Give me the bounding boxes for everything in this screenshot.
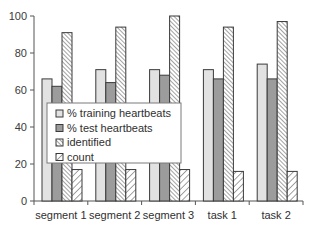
- x-category-label: segment 2: [89, 209, 140, 221]
- y-tick-label: 100: [9, 10, 27, 22]
- bar: [223, 27, 233, 201]
- legend-label: count: [67, 151, 94, 163]
- x-category-label: task 1: [208, 209, 237, 221]
- bar: [233, 171, 243, 201]
- legend-label: % test heartbeats: [67, 122, 153, 134]
- bar: [180, 170, 190, 201]
- legend-item: % training heartbeats: [56, 107, 171, 119]
- x-category-label: segment 1: [35, 209, 86, 221]
- bar: [277, 22, 287, 201]
- bar-group: [257, 22, 297, 201]
- y-axis: 020406080100: [9, 10, 34, 207]
- y-tick-label: 40: [15, 121, 27, 133]
- bar: [203, 70, 213, 201]
- legend-swatch: [56, 154, 63, 161]
- bar: [126, 170, 136, 201]
- y-tick-label: 60: [15, 84, 27, 96]
- y-tick-label: 20: [15, 158, 27, 170]
- bar: [213, 79, 223, 201]
- bar: [72, 170, 82, 201]
- x-category-label: task 2: [261, 209, 290, 221]
- legend-swatch: [56, 110, 63, 117]
- y-tick-label: 0: [21, 195, 27, 207]
- bar-chart: 020406080100 segment 1segment 2segment 3…: [0, 0, 316, 230]
- legend-swatch: [56, 139, 63, 146]
- x-category-label: segment 3: [143, 209, 194, 221]
- bar: [257, 64, 267, 201]
- legend-label: identified: [67, 136, 111, 148]
- legend-label: % training heartbeats: [67, 107, 171, 119]
- y-tick-label: 80: [15, 47, 27, 59]
- bar-group: [203, 27, 243, 201]
- legend-swatch: [56, 125, 63, 132]
- x-axis: segment 1segment 2segment 3task 1task 2: [34, 201, 303, 221]
- legend: % training heartbeats% test heartbeatsid…: [47, 103, 181, 163]
- bar: [287, 171, 297, 201]
- legend-item: % test heartbeats: [56, 122, 153, 134]
- bar: [267, 79, 277, 201]
